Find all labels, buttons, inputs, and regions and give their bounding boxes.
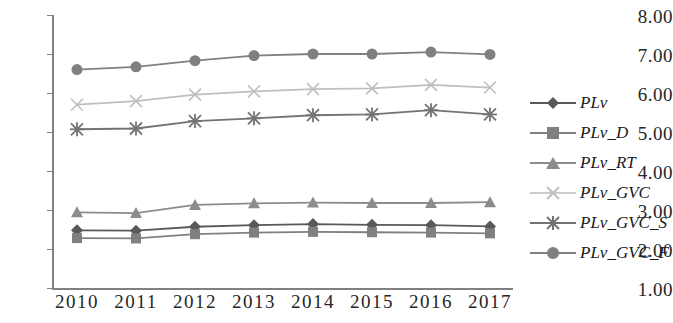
data-point (247, 111, 261, 125)
legend-item-plv-gvc-s[interactable]: PLv_GVC_S (530, 208, 673, 238)
legend-item-plv-rt[interactable]: PLv_RT (530, 148, 673, 178)
line-chart: 8.00 7.00 6.00 5.00 4.00 3.00 2.00 1.00 … (0, 0, 673, 323)
data-point (72, 64, 83, 75)
data-point (483, 107, 497, 121)
legend-label: PLv_RT (580, 153, 636, 173)
x-tick-label: 2017 (460, 292, 520, 311)
legend-label: PLv_GVC_S (580, 213, 667, 233)
data-point (131, 233, 141, 243)
series-PLv_GVC_S (70, 103, 497, 136)
x-tick-label: 2012 (165, 292, 225, 311)
x-tick-label: 2011 (106, 292, 166, 311)
series-PLv_GVC (71, 79, 496, 111)
data-point (485, 49, 496, 60)
data-point (131, 61, 142, 72)
data-point (188, 114, 202, 128)
x-tick-label: 2015 (342, 292, 402, 311)
legend-item-plv-gvc[interactable]: PLv_GVC (530, 178, 673, 208)
data-point (129, 121, 143, 135)
x-tick-label: 2014 (283, 292, 343, 311)
legend-label: PLv_D (580, 123, 628, 143)
asterisk-marker-icon (530, 214, 576, 232)
triangle-marker-icon (530, 154, 576, 172)
data-point (249, 228, 259, 238)
circle-marker-icon (530, 244, 576, 262)
diamond-marker-icon (530, 94, 576, 112)
data-point (308, 227, 318, 237)
legend-label: PLv (580, 93, 607, 113)
series-PLv_GVC_F (72, 47, 496, 76)
data-point (308, 49, 319, 60)
legend-item-plv-d[interactable]: PLv_D (530, 118, 673, 148)
data-point (249, 50, 260, 61)
data-point (485, 228, 495, 238)
data-point (72, 233, 82, 243)
x-tick-label: 2010 (47, 292, 107, 311)
square-marker-icon (530, 124, 576, 142)
legend-item-plv[interactable]: PLv (530, 88, 673, 118)
data-point (190, 229, 200, 239)
series-PLv_RT (71, 196, 496, 218)
x-marker-icon (530, 184, 576, 202)
data-point (426, 228, 436, 238)
data-point (367, 227, 377, 237)
x-tick-label: 2013 (224, 292, 284, 311)
data-point (190, 55, 201, 66)
legend-label: PLv_GVC_F (580, 243, 669, 263)
legend-item-plv-gvc-f[interactable]: PLv_GVC_F (530, 238, 673, 268)
data-point (424, 103, 438, 117)
data-point (70, 122, 84, 136)
legend-label: PLv_GVC (580, 183, 650, 203)
data-point (426, 47, 437, 58)
data-point (365, 107, 379, 121)
data-point (306, 108, 320, 122)
chart-legend: PLv PLv_D PLv_RT PLv_GVC (530, 88, 673, 268)
x-tick-label: 2016 (401, 292, 461, 311)
data-point (367, 49, 378, 60)
